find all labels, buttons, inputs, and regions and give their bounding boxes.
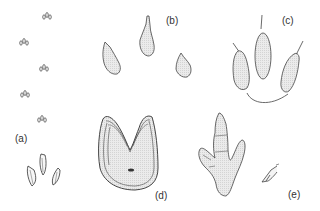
figure-canvas: [0, 0, 320, 211]
track-print: [21, 91, 30, 98]
track-print: [43, 13, 52, 20]
panel-label-c: (c): [282, 15, 294, 26]
panel-label-d: (d): [155, 190, 167, 201]
enlarged-print: [27, 154, 60, 186]
track-print: [40, 65, 49, 72]
panel-a-trackway: [20, 13, 60, 187]
panel-label-e: (e): [288, 189, 300, 200]
panel-e-prints: [199, 113, 279, 196]
track-print: [38, 116, 47, 123]
panel-label-b: (b): [166, 15, 178, 26]
track-print: [20, 39, 29, 46]
panel-label-a: (a): [15, 133, 27, 144]
panel-c-prints: [233, 15, 303, 103]
panel-d-print: [99, 116, 158, 190]
